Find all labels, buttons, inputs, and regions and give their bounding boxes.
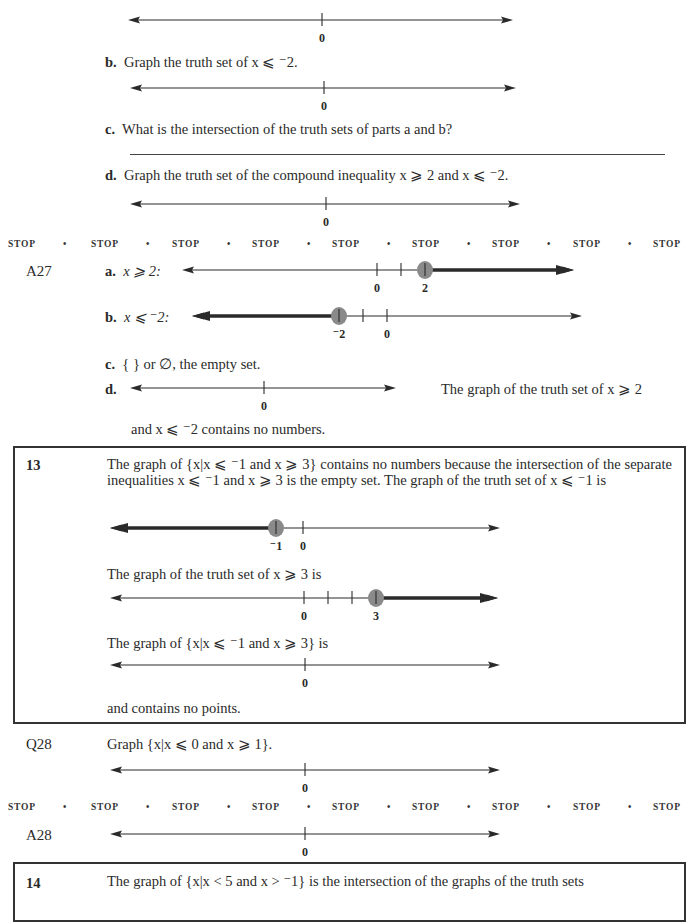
right-arrow-icon <box>384 385 396 392</box>
left-arrow-icon <box>130 85 142 92</box>
stop-marker: STOP <box>91 239 119 249</box>
stop-marker: STOP <box>412 802 440 812</box>
tick-label: 0 <box>323 215 329 229</box>
stop-separator: • <box>227 802 231 812</box>
stop-marker: STOP <box>573 802 601 812</box>
stop-marker: STOP <box>8 802 36 812</box>
question-text: Graph the truth set of x ⩽ ⁻2. <box>124 54 298 70</box>
right-arrow-icon <box>488 767 500 774</box>
tick-label: 0 <box>302 845 308 859</box>
part-label: d. <box>105 167 117 183</box>
stop-marker: STOP <box>653 239 681 249</box>
frame-number: 13 <box>26 458 41 473</box>
tick-label: 2 <box>422 281 428 295</box>
answer-part-d-label: d. <box>105 382 117 397</box>
stop-separator: • <box>547 239 551 249</box>
stop-marker: STOP <box>492 239 520 249</box>
question-label: Q28 <box>26 737 52 752</box>
tick-label: 0 <box>319 31 325 45</box>
stop-separator: • <box>547 802 551 812</box>
answer-label: A27 <box>26 264 52 279</box>
part-c-question: c. What is the intersection of the truth… <box>105 122 452 137</box>
left-arrow-icon <box>130 385 142 392</box>
answer-note-continued: and x ⩽ ⁻2 contains no numbers. <box>131 422 325 437</box>
stop-separator: • <box>63 239 67 249</box>
stop-separator: • <box>146 239 150 249</box>
stop-separator: • <box>146 802 150 812</box>
tick-label: 0 <box>384 327 390 341</box>
right-arrow-icon <box>508 201 520 208</box>
frame-paragraph: The graph of {x|x ⩽ ⁻1 and x ⩾ 3} contai… <box>107 456 672 488</box>
right-arrow-icon <box>488 831 500 838</box>
closed-endpoint-dot <box>331 307 347 325</box>
question-text: What is the intersection of the truth se… <box>122 121 452 137</box>
frame-paragraph: The graph of {x|x < 5 and x > ⁻1} is the… <box>107 874 584 889</box>
right-arrow-icon <box>504 85 516 92</box>
stop-marker: STOP <box>172 239 200 249</box>
part-label: a. <box>105 263 116 279</box>
stop-separator: • <box>628 239 632 249</box>
tick-label: ⁻2 <box>333 327 345 341</box>
stop-row: STOP•STOP•STOP•STOP•STOP•STOP•STOP•STOP•… <box>0 239 694 253</box>
tick-label: 0 <box>261 399 267 413</box>
part-label: c. <box>105 356 115 372</box>
frame-paragraph: The graph of {x|x ⩽ ⁻1 and x ⩾ 3} is <box>107 636 328 651</box>
stop-row: STOP•STOP•STOP•STOP•STOP•STOP•STOP•STOP•… <box>0 802 694 816</box>
left-arrow-icon <box>192 311 210 321</box>
stop-marker: STOP <box>252 239 280 249</box>
right-arrow-icon <box>570 313 582 320</box>
answer-part-c: c. { } or ∅, the empty set. <box>105 357 260 372</box>
left-arrow-icon <box>110 831 122 838</box>
answer-label: A28 <box>26 828 52 843</box>
stop-marker: STOP <box>252 802 280 812</box>
stop-marker: STOP <box>332 802 360 812</box>
stop-separator: • <box>307 239 311 249</box>
part-label: c. <box>105 121 115 137</box>
stop-separator: • <box>307 802 311 812</box>
tick-label: 0 <box>321 99 327 113</box>
frame-paragraph: The graph of the truth set of x ⩾ 3 is <box>107 567 321 582</box>
answer-part-b: b. x ⩽ ⁻2: <box>105 310 169 325</box>
frame-paragraph: and contains no points. <box>107 701 241 716</box>
right-arrow-icon <box>562 267 574 274</box>
stop-marker: STOP <box>653 802 681 812</box>
answer-blank-line[interactable] <box>130 154 665 155</box>
stop-separator: • <box>387 802 391 812</box>
stop-marker: STOP <box>492 802 520 812</box>
stop-marker: STOP <box>573 239 601 249</box>
answer-part-a: a. x ⩾ 2: <box>105 264 161 279</box>
inequality-text: x ⩾ 2: <box>123 263 161 279</box>
stop-marker: STOP <box>412 239 440 249</box>
left-arrow-icon <box>128 17 140 24</box>
closed-endpoint-dot <box>417 261 433 279</box>
part-label: b. <box>105 54 117 70</box>
question-text: Graph {x|x ⩽ 0 and x ⩾ 1}. <box>107 737 272 752</box>
stop-marker: STOP <box>91 802 119 812</box>
left-arrow-icon <box>110 767 122 774</box>
right-arrow-icon <box>501 17 513 24</box>
left-arrow-icon <box>182 267 194 274</box>
part-b-question: b. Graph the truth set of x ⩽ ⁻2. <box>105 55 298 70</box>
part-label: d. <box>105 381 117 397</box>
answer-note: The graph of the truth set of x ⩾ 2 <box>441 382 642 397</box>
inequality-text: x ⩽ ⁻2: <box>124 309 169 325</box>
left-arrow-icon <box>130 201 142 208</box>
tick-label: 0 <box>374 281 380 295</box>
stop-separator: • <box>467 239 471 249</box>
frame-14-box <box>13 862 686 922</box>
answer-text: { } or ∅, the empty set. <box>122 356 260 372</box>
stop-separator: • <box>387 239 391 249</box>
stop-marker: STOP <box>332 239 360 249</box>
stop-separator: • <box>63 802 67 812</box>
frame-number: 14 <box>26 876 41 891</box>
part-label: b. <box>105 309 117 325</box>
part-d-question: d. Graph the truth set of the compound i… <box>105 168 508 183</box>
stop-separator: • <box>227 239 231 249</box>
right-arrow-icon <box>556 265 574 275</box>
stop-separator: • <box>628 802 632 812</box>
left-arrow-icon <box>192 313 204 320</box>
question-text: Graph the truth set of the compound ineq… <box>124 167 508 183</box>
stop-separator: • <box>467 802 471 812</box>
stop-marker: STOP <box>172 802 200 812</box>
tick-label: 0 <box>302 781 308 795</box>
